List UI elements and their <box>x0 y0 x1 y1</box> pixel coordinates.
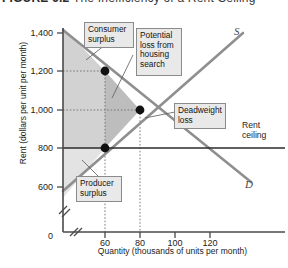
producer-surplus-line2: surplus <box>80 189 118 199</box>
rent-ceiling-line2: ceiling <box>242 130 266 140</box>
rent-ceiling-line1: Rent <box>242 120 266 130</box>
region-deadweight-loss <box>105 71 140 148</box>
callout-deadweight-loss: Deadweight loss <box>174 103 226 129</box>
origin-zero-label: 0 <box>48 231 53 241</box>
callout-producer-surplus: Producer surplus <box>76 176 122 202</box>
y-ticks <box>57 33 63 187</box>
x-ticks <box>105 232 210 238</box>
label-rent-ceiling: Rent ceiling <box>242 120 266 140</box>
consumer-surplus-line2: surplus <box>88 35 130 45</box>
potential-loss-line4: search <box>140 60 178 70</box>
y-axis-title: Rent (dollars per unit per month) <box>18 23 28 183</box>
demand-curve-label: D <box>245 178 253 190</box>
callout-potential-loss: Potential loss from housing search <box>136 28 182 76</box>
deadweight-line2: loss <box>178 116 222 126</box>
x-axis-title: Quantity (thousands of units per month) <box>60 246 285 256</box>
chart-plot-area: 1,400 1,200 1,000 800 600 0 60 80 100 12… <box>0 0 288 268</box>
callout-consumer-surplus: Consumer surplus <box>84 22 134 48</box>
supply-curve-label: S <box>234 25 240 37</box>
figure-container: FIGURE 6.2 The Inefficiency of a Rent Ce… <box>0 0 288 268</box>
y-tick-600: 600 <box>19 182 53 192</box>
point-60-1200 <box>101 67 110 76</box>
point-80-1000 <box>136 106 145 115</box>
point-60-800 <box>101 144 110 153</box>
